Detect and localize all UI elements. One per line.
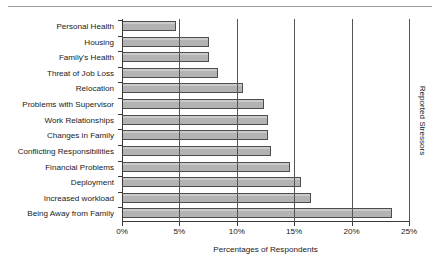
bar[interactable] [122,37,209,47]
y-axis-label: Housing [84,35,114,51]
y-axis-label: Relocation [76,81,114,97]
bar-row [122,144,409,160]
bar-row [122,160,409,176]
x-axis-tick-label: 15% [286,227,302,236]
x-axis-tick-label: 0% [116,227,128,236]
bar-row [122,206,409,222]
gridline-20 [352,19,353,222]
x-axis-tick-label: 20% [343,227,359,236]
x-axis-tick [179,222,180,226]
bar[interactable] [122,177,301,187]
bar-row [122,97,409,113]
gridline-25 [409,19,410,222]
y-axis-label: Threat of Job Loss [47,66,114,82]
y-axis-title-text: Reported Stressors [419,86,428,156]
x-axis-line [122,221,409,222]
y-axis-label: Personal Health [56,19,114,35]
y-axis-labels: Personal HealthHousingFamily's HealthThr… [0,19,118,222]
bar[interactable] [122,52,209,62]
x-axis-tick [237,222,238,226]
bar[interactable] [122,21,176,31]
y-axis-label: Changes in Family [47,128,114,144]
y-axis-label: Increased workload [44,191,114,207]
top-divider-rule [8,6,432,7]
gridline-10 [237,19,238,222]
bar[interactable] [122,193,311,203]
bar-row [122,128,409,144]
bar-row [122,81,409,97]
y-axis-label: Conflicting Responsibilities [18,144,114,160]
bar[interactable] [122,162,290,172]
x-axis-tick [294,222,295,226]
bar[interactable] [122,115,268,125]
bar-chart-figure: Personal HealthHousingFamily's HealthThr… [0,0,440,271]
y-axis-label: Family's Health [59,50,114,66]
y-axis-label: Being Away from Family [27,206,114,222]
plot-area [122,19,409,222]
x-axis-tick-label: 25% [401,227,417,236]
bar-row [122,175,409,191]
bar-row [122,19,409,35]
gridline-15 [294,19,295,222]
y-axis-title: Reported Stressors [416,19,430,222]
x-axis-tick [122,222,123,226]
x-axis-tick [352,222,353,226]
bar-row [122,35,409,51]
y-axis-label: Financial Problems [45,160,114,176]
gridline-0 [122,19,123,222]
x-axis-title: Percentages of Respondents [122,245,409,254]
bar[interactable] [122,99,264,109]
y-axis-label: Problems with Supervisor [22,97,114,113]
x-axis-tick-label: 10% [229,227,245,236]
bar[interactable] [122,130,268,140]
y-axis-label: Deployment [71,175,114,191]
gridline-5 [179,19,180,222]
bar[interactable] [122,146,271,156]
bar-rows [122,19,409,222]
bar[interactable] [122,83,243,93]
bar-row [122,66,409,82]
x-axis-tick [409,222,410,226]
bar-row [122,113,409,129]
x-axis-tick-label: 5% [174,227,186,236]
bar-row [122,50,409,66]
bar[interactable] [122,68,218,78]
y-axis-label: Work Relationships [44,113,114,129]
bar-row [122,191,409,207]
